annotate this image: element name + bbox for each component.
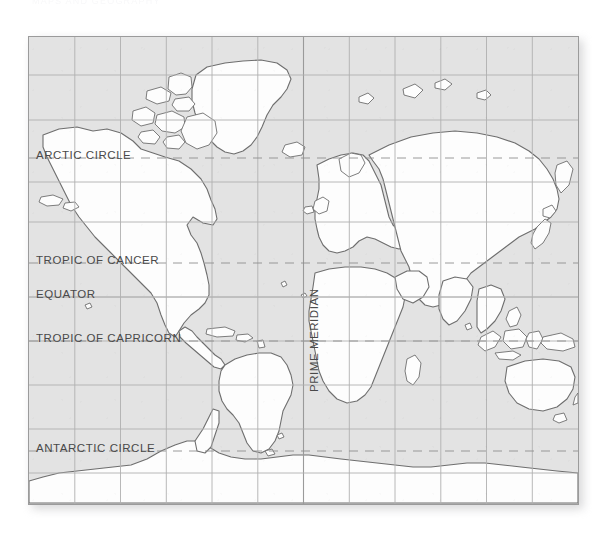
- label-tropic-of-capricorn: TROPIC OF CAPRICORN: [36, 332, 181, 344]
- label-antarctic-circle: ANTARCTIC CIRCLE: [36, 442, 155, 454]
- top-caption-remnant: MAPS AND GEOGRAPHY: [32, 0, 282, 5]
- ellesmere-island-shape: [168, 73, 192, 95]
- map-plate: .land { fill:#fdfdfd; stroke:#6e6e6e; st…: [28, 36, 579, 505]
- label-tropic-of-cancer: TROPIC OF CANCER: [36, 254, 159, 266]
- label-arctic-circle: ARCTIC CIRCLE: [36, 149, 131, 161]
- label-equator: EQUATOR: [36, 288, 96, 300]
- world-map-svg: .land { fill:#fdfdfd; stroke:#6e6e6e; st…: [29, 37, 578, 504]
- label-prime-meridian: PRIME MERIDIAN: [308, 288, 320, 392]
- world-map-figure: .land { fill:#fdfdfd; stroke:#6e6e6e; st…: [28, 36, 579, 505]
